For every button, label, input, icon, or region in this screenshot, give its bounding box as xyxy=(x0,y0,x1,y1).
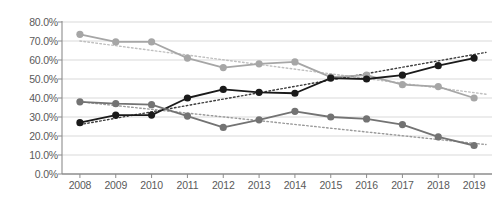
data-point xyxy=(435,133,442,140)
data-point xyxy=(291,90,298,97)
x-axis-label: 2016 xyxy=(347,178,387,192)
x-axis-label: 2014 xyxy=(275,178,315,192)
data-point xyxy=(220,64,227,71)
data-point xyxy=(291,58,298,65)
y-axis-label: 40.0% xyxy=(0,93,58,103)
data-point xyxy=(470,55,477,62)
trendline-medium-gray-series xyxy=(80,102,486,145)
data-point xyxy=(112,38,119,45)
data-point xyxy=(255,89,262,96)
line-light-gray-series xyxy=(80,34,474,98)
data-point xyxy=(112,112,119,119)
data-point xyxy=(399,81,406,88)
x-axis-label: 2018 xyxy=(418,178,458,192)
y-axis-label: 80.0% xyxy=(0,17,58,27)
y-axis-label: 30.0% xyxy=(0,112,58,122)
x-axis-label: 2015 xyxy=(311,178,351,192)
data-point xyxy=(184,55,191,62)
data-point xyxy=(76,98,83,105)
data-point xyxy=(112,100,119,107)
y-axis-label: 60.0% xyxy=(0,55,58,65)
data-point xyxy=(184,112,191,119)
data-point xyxy=(148,101,155,108)
x-axis-label: 2019 xyxy=(454,178,494,192)
line-black-series xyxy=(80,58,474,123)
chart-plot-area xyxy=(0,0,496,198)
data-point xyxy=(291,108,298,115)
data-point xyxy=(435,62,442,69)
data-point xyxy=(220,86,227,93)
data-point xyxy=(76,31,83,38)
x-axis-label: 2017 xyxy=(382,178,422,192)
y-axis-label: 70.0% xyxy=(0,36,58,46)
line-chart: 0.0%10.0%20.0%30.0%40.0%50.0%60.0%70.0%8… xyxy=(0,0,496,198)
data-point xyxy=(399,72,406,79)
data-point xyxy=(148,38,155,45)
y-axis-labels: 0.0%10.0%20.0%30.0%40.0%50.0%60.0%70.0%8… xyxy=(0,0,58,198)
y-axis-label: 20.0% xyxy=(0,131,58,141)
data-point xyxy=(255,60,262,67)
data-point xyxy=(184,94,191,101)
data-point xyxy=(148,112,155,119)
data-point xyxy=(76,119,83,126)
x-axis-labels: 2008200920102011201220132014201520162017… xyxy=(0,176,496,198)
x-axis-label: 2008 xyxy=(60,178,100,192)
data-point xyxy=(255,116,262,123)
data-point xyxy=(435,83,442,90)
data-point xyxy=(220,124,227,131)
x-axis-label: 2011 xyxy=(167,178,207,192)
data-point xyxy=(363,75,370,82)
y-axis-label: 10.0% xyxy=(0,150,58,160)
data-point xyxy=(327,74,334,81)
x-axis-label: 2013 xyxy=(239,178,279,192)
x-axis-label: 2009 xyxy=(96,178,136,192)
data-point xyxy=(470,142,477,149)
y-axis-label: 50.0% xyxy=(0,74,58,84)
x-axis-label: 2012 xyxy=(203,178,243,192)
x-axis-label: 2010 xyxy=(132,178,172,192)
data-point xyxy=(470,94,477,101)
data-point xyxy=(363,115,370,122)
data-point xyxy=(327,113,334,120)
data-point xyxy=(399,121,406,128)
